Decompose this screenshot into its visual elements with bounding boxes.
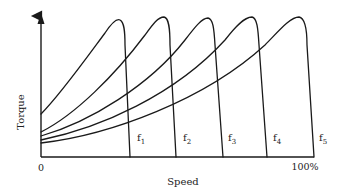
svg-text:f4: f4 (273, 132, 282, 146)
torque-curve-f3 (41, 18, 223, 157)
torque-curve-f4 (41, 17, 267, 157)
y-axis-label: Torque (15, 94, 26, 130)
x-axis-label: Speed (167, 176, 199, 187)
x-tick-end: 100% (291, 161, 318, 172)
curve-label-f1: f1 (137, 132, 145, 146)
svg-text:f3: f3 (228, 132, 236, 146)
torque-speed-diagram: Torque Speed 0 100% f1 f2 f3 f4 f5 (0, 0, 343, 194)
svg-text:f5: f5 (319, 132, 327, 146)
x-tick-start: 0 (38, 162, 44, 173)
svg-text:f2: f2 (183, 132, 191, 146)
curve-label-f3: f3 (228, 132, 236, 146)
torque-curve-f2 (41, 17, 176, 157)
y-axis-arrow-icon (38, 13, 45, 24)
curve-label-f4: f4 (273, 132, 282, 146)
curve-label-f2: f2 (183, 132, 191, 146)
svg-text:f1: f1 (137, 132, 145, 146)
curve-label-f5: f5 (319, 132, 327, 146)
